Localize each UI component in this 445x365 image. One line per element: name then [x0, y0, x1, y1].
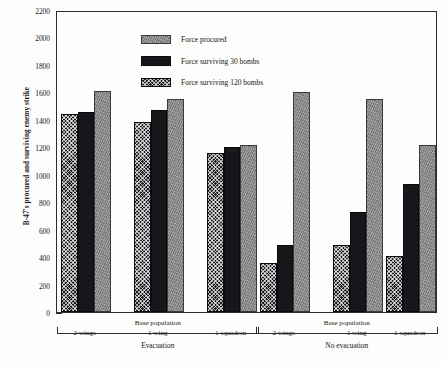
bar: [240, 145, 257, 312]
legend-item: Force surviving 120 bombs: [141, 75, 263, 90]
y-axis-title: B-47's procured and surviving enemy stri…: [23, 41, 31, 271]
bar: [167, 99, 184, 312]
bar: [224, 147, 241, 312]
y-axis-tick-label: 1000: [0, 171, 50, 180]
bar: [403, 184, 420, 312]
bar: [366, 99, 383, 312]
y-axis-tick-label: 0: [0, 309, 50, 318]
y-axis-tick-label: 400: [0, 254, 50, 263]
legend-label: Force surviving 30 bombs: [181, 57, 260, 66]
section-label: Evacuation: [141, 341, 174, 350]
bar: [333, 245, 350, 312]
bar: [134, 122, 151, 312]
section-bracket: [256, 327, 438, 334]
bar: [207, 153, 224, 312]
y-axis-tick-label: 1200: [0, 144, 50, 153]
y-axis-tick-label: 600: [0, 226, 50, 235]
bar: [61, 114, 78, 312]
legend-swatch: [141, 35, 171, 45]
base-population-label: Base population: [324, 319, 370, 327]
base-population-label: Base population: [135, 319, 181, 327]
y-axis-tick-label: 800: [0, 199, 50, 208]
bar: [260, 263, 277, 312]
legend-swatch: [141, 56, 171, 66]
y-axis-tick-line: [56, 313, 62, 314]
y-axis-tick-label: 2000: [0, 34, 50, 43]
y-axis-tick-label: 1800: [0, 61, 50, 70]
bar-chart-figure: B-47's procured and surviving enemy stri…: [0, 0, 445, 365]
section-label: No evacuation: [325, 341, 368, 350]
bar: [78, 112, 95, 312]
plot-area: Force procuredForce surviving 30 bombsFo…: [56, 11, 437, 313]
legend-item: Force procured: [141, 32, 263, 47]
chart-legend: Force procuredForce surviving 30 bombsFo…: [141, 32, 263, 97]
section-bracket: [57, 327, 259, 334]
y-axis-tick-label: 1600: [0, 89, 50, 98]
bar: [94, 91, 111, 312]
bar: [419, 145, 436, 312]
bar: [350, 212, 367, 312]
bar: [386, 256, 403, 312]
legend-label: Force surviving 120 bombs: [181, 78, 263, 87]
bar: [277, 245, 294, 312]
y-axis-tick-label: 200: [0, 281, 50, 290]
legend-label: Force procured: [181, 35, 227, 44]
legend-swatch: [141, 78, 171, 88]
y-axis-tick-label: 1400: [0, 116, 50, 125]
bar: [293, 92, 310, 312]
y-axis-tick-label: 2200: [0, 7, 50, 16]
legend-item: Force surviving 30 bombs: [141, 54, 263, 69]
bar: [151, 110, 168, 312]
